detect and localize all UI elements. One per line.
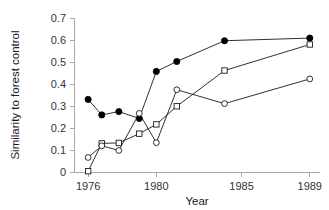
data-point-open-square [307, 42, 312, 47]
line-chart: 00.10.20.30.40.50.60.7 Similarity to for… [0, 0, 329, 210]
y-axis-group: 00.10.20.30.40.50.60.7 Similarity to for… [9, 12, 75, 179]
y-tick-label: 0.6 [51, 34, 66, 46]
y-tick-label: 0.3 [51, 100, 66, 112]
x-axis-group: 1976198019851989 Year [75, 173, 323, 208]
series-line-open-circle-series [88, 79, 310, 158]
data-point-filled-circle [99, 112, 105, 118]
data-point-filled-circle [153, 68, 159, 74]
y-axis-ticks [70, 18, 75, 173]
y-tick-label: 0.7 [51, 12, 66, 24]
data-point-open-square [222, 68, 227, 73]
data-point-open-circle [99, 143, 105, 149]
y-tick-label: 0.4 [51, 78, 66, 90]
data-point-filled-circle [221, 38, 227, 44]
data-point-open-square [174, 104, 179, 109]
data-point-filled-circle [85, 96, 91, 102]
data-point-open-circle [153, 140, 159, 146]
data-point-open-square [137, 131, 142, 136]
data-point-open-circle [116, 148, 122, 154]
x-axis-ticks [88, 173, 310, 178]
y-axis-title: Similarity to forest control [9, 30, 21, 159]
x-axis-tick-labels: 1976198019851989 [76, 180, 322, 192]
x-tick-label: 1985 [229, 180, 253, 192]
y-tick-label: 0 [60, 166, 66, 178]
x-axis-title: Year [185, 195, 208, 207]
y-tick-label: 0.2 [51, 122, 66, 134]
x-tick-label: 1989 [298, 180, 322, 192]
data-point-filled-circle [307, 35, 313, 41]
data-point-open-square [116, 140, 121, 145]
data-point-open-circle [307, 76, 313, 82]
x-tick-label: 1976 [76, 180, 100, 192]
series-open-square-series [85, 42, 312, 174]
series-open-circle-series [85, 76, 312, 160]
y-axis-tick-labels: 00.10.20.30.40.50.60.7 [51, 12, 66, 179]
data-point-filled-circle [174, 58, 180, 64]
data-point-open-circle [222, 101, 228, 107]
data-point-open-circle [174, 87, 180, 93]
y-tick-label: 0.1 [51, 144, 66, 156]
x-tick-label: 1980 [144, 180, 168, 192]
data-point-open-circle [136, 110, 142, 116]
data-series-layer [85, 35, 313, 174]
y-tick-label: 0.5 [51, 56, 66, 68]
series-filled-circle-series [85, 35, 313, 122]
data-point-open-square [85, 168, 90, 173]
series-line-filled-circle-series [88, 38, 310, 118]
data-point-open-circle [85, 155, 91, 161]
data-point-open-square [154, 122, 159, 127]
chart-figure: 00.10.20.30.40.50.60.7 Similarity to for… [0, 0, 329, 210]
data-point-filled-circle [116, 108, 122, 114]
